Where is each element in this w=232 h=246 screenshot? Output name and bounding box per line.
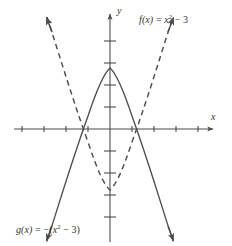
label-g-equals: = (33, 224, 44, 235)
y-axis-label: y (117, 5, 121, 16)
x-axis-label: x (211, 111, 215, 122)
label-f-arg: (x) (142, 14, 153, 25)
curve-f-arrow-upper-left (47, 18, 53, 33)
coordinate-plot (0, 0, 232, 246)
function-label-f: f(x) = x2 − 3 (139, 14, 188, 25)
label-g-prefix: −( (43, 224, 52, 235)
curve-g-arrow-lower-right (168, 226, 174, 241)
label-g-tail: − 3) (61, 224, 80, 235)
label-f-tail: − 3 (172, 14, 188, 25)
label-g-arg: (x) (21, 224, 32, 235)
axis-y (104, 14, 116, 242)
axis-x (14, 126, 213, 132)
graph-figure: f(x) = x2 − 3 g(x) = −(x2 − 3) x y (0, 0, 232, 246)
label-f-equals: = (153, 14, 164, 25)
function-label-g: g(x) = −(x2 − 3) (16, 224, 80, 235)
